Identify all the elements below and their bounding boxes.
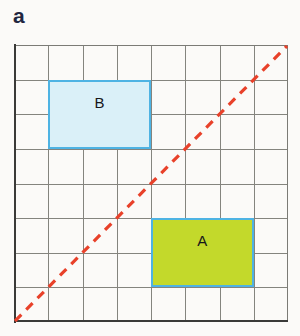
grid-hline [14,287,288,288]
grid-hline [14,184,288,185]
region-label-a: A [197,233,207,248]
grid-hline [14,149,288,150]
grid-edge-right [287,45,288,322]
region-box-a[interactable]: A [151,218,254,287]
panel-label: a [13,5,25,26]
region-label-b: B [95,95,105,110]
grid-edge-top [14,45,288,46]
grid-axis-left [14,44,16,323]
region-box-b[interactable]: B [48,80,151,149]
figure-panel: a B [0,0,300,336]
grid-axis-bottom [14,320,288,322]
grid-vline [254,45,255,322]
grid-plot-area: B A [14,45,288,322]
